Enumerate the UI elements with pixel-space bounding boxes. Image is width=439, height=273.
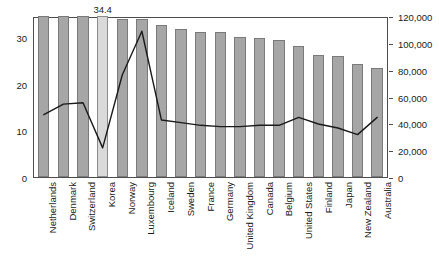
category-label: Luxembourg — [132, 180, 152, 272]
bar-slot — [73, 18, 93, 177]
category-label: Australia — [368, 180, 388, 272]
left-axis: 0102030 — [0, 17, 32, 178]
category-label: Korea — [92, 180, 112, 272]
category-label: Iceland — [151, 180, 171, 272]
right-axis-tick: 100,000 — [398, 38, 432, 49]
bar-denmark[interactable] — [58, 16, 69, 177]
bar-australia[interactable] — [371, 68, 382, 177]
right-axis: 020,00040,00060,00080,000100,000120,000 — [389, 17, 439, 178]
bar-iceland[interactable] — [156, 25, 167, 177]
category-label: Switzerland — [72, 180, 92, 272]
category-label: United States — [289, 180, 309, 272]
category-label: Norway — [112, 180, 132, 272]
bar-slot — [230, 18, 250, 177]
plot-area: 34.4 — [33, 17, 388, 178]
category-label: Finland — [309, 180, 329, 272]
bar-value-label: 34.4 — [93, 4, 112, 15]
bar-united-states[interactable] — [293, 46, 304, 177]
bar-slot: 34.4 — [93, 18, 113, 177]
category-label-text: Australia — [382, 182, 393, 219]
category-label: Germany — [210, 180, 230, 272]
category-label: United Kingdom — [230, 180, 250, 272]
bar-korea[interactable] — [97, 16, 108, 177]
category-label: Canada — [250, 180, 270, 272]
bar-canada[interactable] — [254, 38, 265, 177]
right-axis-tickmark — [389, 151, 393, 152]
bar-norway[interactable] — [117, 19, 128, 177]
category-label: Netherlands — [33, 180, 53, 272]
left-axis-tick: 10 — [16, 126, 27, 137]
right-axis-tick: 120,000 — [398, 12, 432, 23]
bar-slot — [289, 18, 309, 177]
left-axis-tick: 20 — [16, 79, 27, 90]
right-axis-tickmark — [389, 71, 393, 72]
left-axis-tick: 0 — [22, 173, 27, 184]
right-axis-tickmark — [389, 178, 393, 179]
left-axis-tick: 30 — [16, 33, 27, 44]
bar-slot — [171, 18, 191, 177]
category-label: France — [191, 180, 211, 272]
bar-new-zealand[interactable] — [352, 64, 363, 177]
right-axis-tickmark — [389, 124, 393, 125]
bar-slot — [132, 18, 152, 177]
category-label: Denmark — [53, 180, 73, 272]
category-label: Sweden — [171, 180, 191, 272]
bar-netherlands[interactable] — [38, 16, 49, 177]
bar-slot — [269, 18, 289, 177]
bar-slot — [54, 18, 74, 177]
category-labels: NetherlandsDenmarkSwitzerlandKoreaNorway… — [33, 180, 388, 272]
bar-series: 34.4 — [34, 18, 387, 177]
bar-slot — [328, 18, 348, 177]
category-label: Belgium — [270, 180, 290, 272]
chart-root: 0102030 34.4 020,00040,00060,00080,00010… — [0, 0, 439, 273]
right-axis-tickmark — [389, 98, 393, 99]
bar-sweden[interactable] — [175, 29, 186, 177]
bar-luxembourg[interactable] — [136, 19, 147, 177]
right-axis-tickmark — [389, 44, 393, 45]
right-axis-tick: 80,000 — [398, 65, 427, 76]
bar-slot — [348, 18, 368, 177]
right-axis-tick: 40,000 — [398, 119, 427, 130]
category-label: Japan — [329, 180, 349, 272]
bar-finland[interactable] — [313, 55, 324, 177]
right-axis-tick: 20,000 — [398, 146, 427, 157]
bar-united-kingdom[interactable] — [234, 37, 245, 177]
bar-japan[interactable] — [332, 56, 343, 177]
right-axis-tick: 60,000 — [398, 92, 427, 103]
bar-slot — [191, 18, 211, 177]
bar-france[interactable] — [195, 32, 206, 177]
right-axis-tickmark — [389, 17, 393, 18]
bar-belgium[interactable] — [273, 40, 284, 177]
bar-slot — [250, 18, 270, 177]
bar-slot — [34, 18, 54, 177]
bar-slot — [112, 18, 132, 177]
category-label: New Zealand — [349, 180, 369, 272]
bar-germany[interactable] — [215, 32, 226, 177]
bar-slot — [210, 18, 230, 177]
bar-slot — [309, 18, 329, 177]
bar-slot — [367, 18, 387, 177]
right-axis-tick: 0 — [398, 173, 403, 184]
bar-slot — [152, 18, 172, 177]
plot-inner: 34.4 — [34, 18, 387, 177]
bar-switzerland[interactable] — [77, 16, 88, 177]
